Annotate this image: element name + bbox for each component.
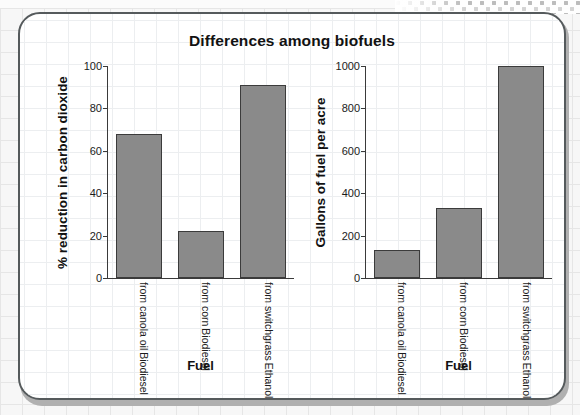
x-axis-title-right: Fuel xyxy=(365,358,552,373)
y-axis-title-left: % reduction in carbon dioxide xyxy=(52,66,72,278)
y-axis-title-left-text: % reduction in carbon dioxide xyxy=(55,76,70,269)
y-tick-right-600: 600 xyxy=(342,145,360,157)
x-category-rotated-text: Ethanolfrom switchgrass xyxy=(263,282,275,398)
y-axis-title-right-text: Gallons of fuel per acre xyxy=(313,97,328,247)
bar-right-2 xyxy=(498,66,544,278)
page-background: Differences among biofuels % reduction i… xyxy=(0,0,580,415)
plot-area-left xyxy=(107,66,294,279)
x-category-line: from switchgrass xyxy=(521,282,533,361)
y-tick-labels-right: 02004006008001000 xyxy=(328,66,360,278)
figure-card: Differences among biofuels % reduction i… xyxy=(18,12,566,400)
bar-left-0 xyxy=(116,134,162,278)
y-tick-right-0: 0 xyxy=(354,272,360,284)
y-tick-right-200: 200 xyxy=(342,230,360,242)
y-tick-left-100: 100 xyxy=(84,60,102,72)
bar-group-left xyxy=(108,66,294,278)
y-axis-title-right: Gallons of fuel per acre xyxy=(310,66,330,278)
y-tick-left-80: 80 xyxy=(90,102,102,114)
x-category-rotated-text: Biodieselfrom canola oil xyxy=(396,282,408,395)
y-tick-right-1000: 1000 xyxy=(336,60,360,72)
bar-right-0 xyxy=(374,250,420,278)
y-tick-labels-left: 020406080100 xyxy=(70,66,102,278)
x-category-line: from corn xyxy=(200,282,212,326)
bar-right-1 xyxy=(436,208,482,278)
x-category-rotated-text: Biodieselfrom canola oil xyxy=(138,282,150,395)
y-tick-right-400: 400 xyxy=(342,187,360,199)
plot-area-right xyxy=(365,66,552,279)
figure-title: Differences among biofuels xyxy=(20,32,564,50)
y-tick-left-40: 40 xyxy=(90,187,102,199)
chart-panel-left: % reduction in carbon dioxide 0204060801… xyxy=(50,66,300,386)
x-axis-title-left: Fuel xyxy=(107,358,294,373)
bar-group-right xyxy=(366,66,552,278)
x-category-line: from canola oil xyxy=(396,282,408,350)
x-category-line: from switchgrass xyxy=(263,282,275,361)
bar-left-1 xyxy=(178,231,224,278)
chart-panel-right: Gallons of fuel per acre 020040060080010… xyxy=(308,66,558,386)
y-tick-left-20: 20 xyxy=(90,230,102,242)
y-tick-left-60: 60 xyxy=(90,145,102,157)
x-category-rotated-text: Ethanolfrom switchgrass xyxy=(521,282,533,398)
y-tick-right-800: 800 xyxy=(342,102,360,114)
bar-left-2 xyxy=(240,85,286,278)
x-category-line: from canola oil xyxy=(138,282,150,350)
x-category-line: from corn xyxy=(458,282,470,326)
y-tick-left-0: 0 xyxy=(96,272,102,284)
